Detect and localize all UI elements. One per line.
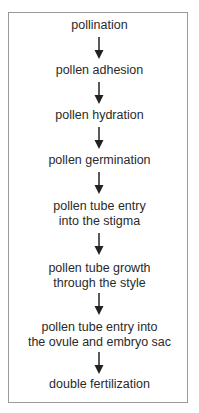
step-double-fertilization: double fertilization bbox=[0, 377, 199, 392]
arrow-down-icon bbox=[92, 172, 106, 194]
arrow-down-icon bbox=[92, 233, 106, 255]
arrow-down-icon bbox=[92, 82, 106, 104]
arrow-down-icon bbox=[92, 127, 106, 149]
step-tube-entry-ovule: pollen tube entry into the ovule and emb… bbox=[0, 320, 199, 350]
arrow-down-icon bbox=[92, 37, 106, 59]
arrow-down-icon bbox=[92, 352, 106, 374]
arrow-down-icon bbox=[92, 293, 106, 315]
step-tube-growth-style: pollen tube growth through the style bbox=[0, 261, 199, 291]
step-pollen-adhesion: pollen adhesion bbox=[0, 63, 199, 78]
step-pollination: pollination bbox=[0, 18, 199, 33]
step-tube-entry-stigma: pollen tube entry into the stigma bbox=[0, 199, 199, 229]
step-pollen-hydration: pollen hydration bbox=[0, 108, 199, 123]
step-pollen-germination: pollen germination bbox=[0, 153, 199, 168]
